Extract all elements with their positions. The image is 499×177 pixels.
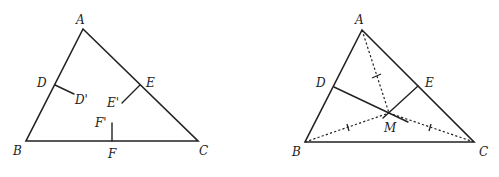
- label-b-right: B: [291, 145, 301, 159]
- label-b-left: B: [12, 144, 22, 158]
- label-d-left: D: [36, 76, 47, 90]
- label-d-right: D: [315, 76, 326, 90]
- label-c-right: C: [479, 145, 488, 159]
- label-fprime: F': [94, 116, 107, 130]
- label-eprime: E': [106, 96, 119, 110]
- label-e-left: E: [145, 76, 155, 90]
- label-a-left: A: [75, 13, 85, 27]
- label-m: M: [383, 121, 397, 135]
- geometry-figure: A D D' E E' F' B F C A D E M B C: [0, 0, 499, 177]
- label-a-right: A: [354, 13, 364, 27]
- label-c-left: C: [199, 144, 208, 158]
- tick-ma: [372, 74, 381, 78]
- label-dprime: D': [74, 93, 88, 107]
- right-triangle-figure: A D E M B C: [291, 13, 488, 159]
- label-e-right: E: [424, 76, 434, 90]
- left-triangle-figure: A D D' E E' F' B F C: [12, 13, 208, 161]
- segment-mc: [389, 113, 474, 142]
- perpendicular-e-eprime: [122, 85, 140, 103]
- perpendicular-d-dprime: [55, 85, 74, 94]
- label-f-left: F: [107, 147, 117, 161]
